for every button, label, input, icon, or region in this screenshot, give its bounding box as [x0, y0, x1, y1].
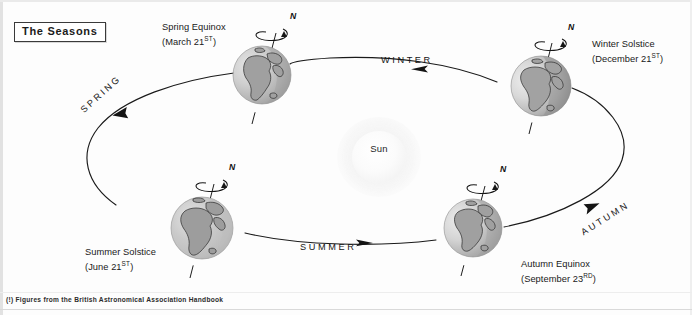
- footnote-rule-bottom: [0, 309, 692, 310]
- caption-spring-equinox: Spring Equinox (March 21ST): [162, 21, 226, 49]
- caption-summer-date: (June 21ST): [85, 262, 133, 272]
- globe-spring-equinox: [233, 29, 291, 124]
- rotation-arrow-spring: [256, 29, 287, 41]
- caption-autumn-date: (September 23RD): [521, 274, 596, 284]
- arrow-summer: [356, 240, 373, 247]
- season-label-summer: SUMMER: [300, 242, 356, 252]
- arrow-autumn: [584, 203, 601, 215]
- arrow-winter: [411, 66, 428, 73]
- pole-label-spring: N: [290, 11, 296, 21]
- rotation-arrow-autumn: [467, 182, 498, 194]
- caption-winter-name: Winter Solstice: [592, 39, 655, 49]
- seasons-diagram: The Seasons Sun: [0, 0, 692, 315]
- pole-label-winter: N: [568, 22, 574, 32]
- caption-winter-solstice: Winter Solstice (December 21ST): [592, 38, 663, 66]
- rotation-arrow-summer: [196, 180, 227, 192]
- season-label-winter: WINTER: [381, 55, 433, 65]
- caption-summer-solstice: Summer Solstice (June 21ST): [85, 246, 156, 274]
- globe-summer-solstice: [171, 180, 233, 278]
- caption-autumn-name: Autumn Equinox: [521, 259, 590, 269]
- caption-summer-name: Summer Solstice: [85, 247, 156, 257]
- footnote-rule-top: [0, 292, 692, 293]
- pole-label-autumn: N: [500, 164, 506, 174]
- caption-autumn-equinox: Autumn Equinox (September 23RD): [521, 258, 596, 286]
- globe-winter-solstice: [511, 39, 571, 134]
- caption-spring-date: (March 21ST): [162, 37, 216, 47]
- caption-spring-name: Spring Equinox: [162, 22, 226, 32]
- figure-footnote: (!) Figures from the British Astronomica…: [6, 296, 223, 303]
- pole-label-summer: N: [229, 162, 235, 172]
- caption-winter-date: (December 21ST): [592, 54, 663, 64]
- globe-autumn-equinox: [444, 182, 502, 276]
